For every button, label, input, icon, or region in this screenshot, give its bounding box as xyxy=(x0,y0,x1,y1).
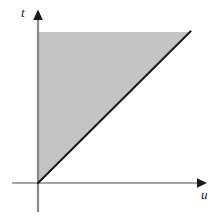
up-arrow-icon xyxy=(33,10,43,21)
region-plot xyxy=(0,0,222,220)
vertical-axis-label: t xyxy=(21,6,25,19)
horizontal-axis-label: u xyxy=(201,188,208,201)
figure-container: t u xyxy=(0,0,222,220)
